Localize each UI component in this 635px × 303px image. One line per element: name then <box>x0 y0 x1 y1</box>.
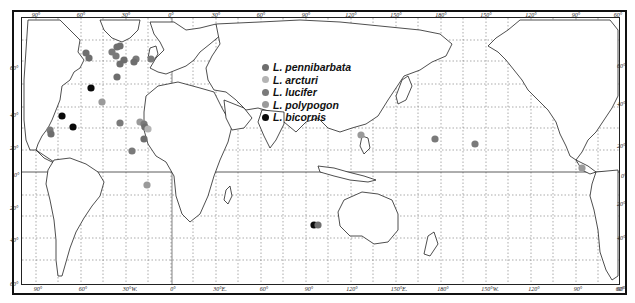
legend-item-bicornis: L. bicornis <box>262 111 351 124</box>
top-lon-label: 120° <box>345 12 356 18</box>
australia <box>338 192 398 244</box>
specimen-point <box>357 131 364 138</box>
bottom-lon-label: 30°E. <box>213 286 227 292</box>
species-legend: L. pennibarbata L. arcturi L. lucifer L.… <box>262 61 351 124</box>
bottom-lon-label: 90° <box>34 286 42 292</box>
specimen-point <box>431 135 438 142</box>
left-lat-label: 40° <box>10 237 18 243</box>
right-lat-label: 60° <box>617 286 625 292</box>
legend-item-pennibarbata: L. pennibarbata <box>262 61 351 74</box>
specimen-point <box>144 125 151 132</box>
left-lat-label: 0° <box>14 172 19 178</box>
left-lat-label: 20° <box>10 145 18 151</box>
legend-label: L. polypogon <box>273 99 339 111</box>
right-lat-label: 40° <box>617 235 625 241</box>
specimen-point <box>128 147 135 154</box>
bottom-lon-label: 60° <box>260 286 268 292</box>
legend-dot-icon <box>262 101 269 108</box>
top-lon-label: 90° <box>302 12 310 18</box>
left-lat-label: 60° <box>10 281 18 287</box>
specimen-point <box>47 130 54 137</box>
legend-dot-icon <box>262 114 269 121</box>
legend-label: L. bicornis <box>273 111 326 123</box>
top-lon-label: 60° <box>614 12 622 18</box>
legend-item-polypogon: L. polypogon <box>262 99 351 112</box>
legend-dot-icon <box>262 76 269 83</box>
north-america-east <box>488 20 618 160</box>
top-lon-label: 180° <box>435 12 446 18</box>
legend-label: L. lucifer <box>273 86 317 98</box>
right-lat-label: 60° <box>617 63 625 69</box>
specimen-point <box>58 112 65 119</box>
bottom-lon-label: 120° <box>528 286 539 292</box>
north-america <box>24 20 84 150</box>
specimen-point <box>87 84 94 91</box>
specimen-point <box>98 98 105 105</box>
specimen-point <box>116 119 123 126</box>
bottom-lon-label: 30°W. <box>123 286 137 292</box>
specimen-point <box>69 123 76 130</box>
africa <box>144 82 232 222</box>
indonesia <box>318 166 376 182</box>
south-america-east <box>590 170 618 280</box>
top-lon-label: 30° <box>122 12 130 18</box>
top-lon-label: 60° <box>77 12 85 18</box>
bottom-lon-label: 150°W. <box>481 286 498 292</box>
specimen-point <box>116 42 123 49</box>
bottom-lon-label: 0° <box>170 286 175 292</box>
specimen-point <box>314 221 321 228</box>
specimen-point <box>143 181 150 188</box>
bottom-lon-label: 120° <box>346 286 357 292</box>
specimen-point <box>471 140 478 147</box>
greenland <box>100 20 140 42</box>
madagascar <box>224 186 232 204</box>
specimen-point <box>147 55 154 62</box>
specimen-point <box>140 135 147 142</box>
specimen-point <box>116 60 123 67</box>
specimen-point <box>578 164 585 171</box>
legend-dot-icon <box>262 89 269 96</box>
right-lat-label: 20° <box>617 201 625 207</box>
bottom-lon-label: 60° <box>79 286 87 292</box>
bottom-lon-label: 150°E. <box>391 286 408 292</box>
legend-label: L. arcturi <box>273 74 318 86</box>
top-lon-label: 0° <box>168 12 173 18</box>
right-lat-label: 20° <box>617 143 625 149</box>
legend-label: L. pennibarbata <box>273 61 351 73</box>
legend-dot-icon <box>262 64 269 71</box>
specimen-point <box>113 73 120 80</box>
south-america <box>46 158 104 276</box>
left-lat-label: 20° <box>10 205 18 211</box>
top-lon-label: 90° <box>572 12 580 18</box>
left-lat-label: 40° <box>10 112 18 118</box>
distribution-map: 90° 60° 30° 0° 30° 60° 90° 120° 150° 180… <box>0 0 635 303</box>
right-lat-label: 0° <box>621 173 626 179</box>
top-lon-label: 150° <box>390 12 401 18</box>
specimen-point <box>130 58 137 65</box>
philippines <box>360 136 370 154</box>
bottom-lon-label: 90° <box>574 286 582 292</box>
top-lon-label: 150° <box>480 12 491 18</box>
bottom-lon-label: 180° <box>437 286 448 292</box>
top-lon-label: 30° <box>212 12 220 18</box>
legend-item-arcturi: L. arcturi <box>262 74 351 87</box>
left-lat-label: 60° <box>10 65 18 71</box>
map-graphic <box>0 0 635 303</box>
right-lat-label: 40° <box>617 101 625 107</box>
legend-item-lucifer: L. lucifer <box>262 86 351 99</box>
top-lon-label: 120° <box>525 12 536 18</box>
specimen-point <box>112 52 119 59</box>
specimen-point <box>85 54 92 61</box>
new-zealand <box>424 232 438 256</box>
bottom-lon-label: 90° <box>305 286 313 292</box>
top-lon-label: 60° <box>257 12 265 18</box>
top-lon-label: 90° <box>32 12 40 18</box>
